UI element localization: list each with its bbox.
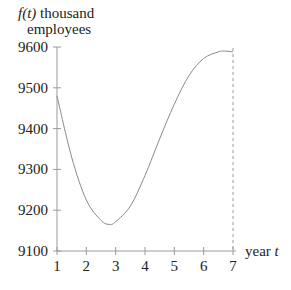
y-tick-label: 9600	[18, 39, 48, 55]
y-tick-label: 9100	[18, 243, 48, 259]
x-tick-label: 1	[53, 258, 61, 274]
x-tick-label: 3	[112, 258, 120, 274]
x-tick-label: 2	[83, 258, 91, 274]
x-tick-label: 5	[171, 258, 179, 274]
x-tick-label: 6	[200, 258, 208, 274]
y-tick-label: 9300	[18, 161, 48, 177]
y-axis-label-line1: f(t) thousand	[18, 5, 95, 22]
y-tick-label: 9400	[18, 121, 48, 137]
y-tick-label: 9200	[18, 202, 48, 218]
x-tick-label: 4	[141, 258, 149, 274]
x-tick-label: 7	[229, 258, 237, 274]
y-tick-label: 9500	[18, 80, 48, 96]
y-ticks: 910092009300940095009600	[18, 39, 61, 259]
y-axis-label-line2: employees	[27, 21, 91, 37]
chart: 910092009300940095009600 1234567 f(t) th…	[0, 0, 291, 290]
function-curve	[57, 51, 233, 225]
x-axis-label: year t	[245, 243, 280, 259]
